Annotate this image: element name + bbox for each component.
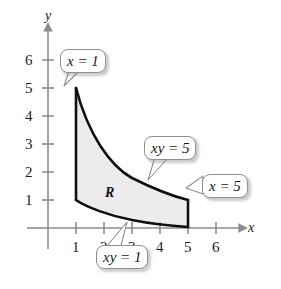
y-axis-label: y <box>45 9 51 23</box>
region-label-R: R <box>105 186 114 200</box>
callout-x-equals-1[interactable]: x = 1 <box>60 49 106 73</box>
callout-xy-equals-5[interactable]: xy = 5 <box>144 136 196 160</box>
callout-xy-equals-1[interactable]: xy = 1 <box>96 245 148 269</box>
x-tick-label-5: 5 <box>184 240 192 255</box>
x-axis-label: x <box>248 221 254 235</box>
x-tick-label-6: 6 <box>212 240 220 255</box>
x-tick-label-1: 1 <box>72 240 80 255</box>
y-tick-label-2: 2 <box>25 165 33 180</box>
y-tick-label-1: 1 <box>25 193 33 208</box>
y-tick-label-3: 3 <box>25 137 33 152</box>
callout-x-equals-5[interactable]: x = 5 <box>202 174 248 198</box>
math-figure: 6 5 4 3 2 1 1 2 3 4 5 6 y x R x = 1 xy =… <box>0 0 281 289</box>
y-tick-label-4: 4 <box>25 109 33 124</box>
y-tick-label-6: 6 <box>25 53 33 68</box>
y-tick-label-5: 5 <box>25 81 33 96</box>
x-tick-label-4: 4 <box>156 240 164 255</box>
